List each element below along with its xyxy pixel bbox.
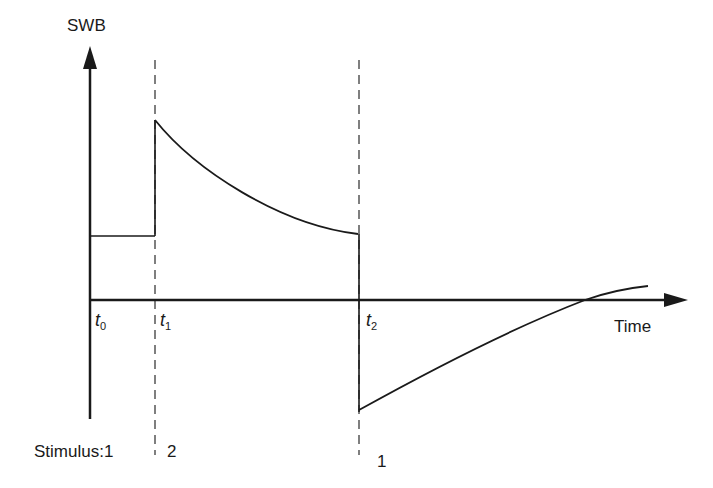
recovery-curve: [359, 286, 648, 410]
stimulus-prefix: Stimulus:: [34, 442, 104, 461]
y-axis-arrow-icon: [83, 46, 97, 69]
time-mark-t2: t2: [366, 311, 377, 332]
x-axis-arrow-icon: [664, 293, 688, 307]
stimulus-value-1: 1: [104, 442, 113, 461]
stimulus-label-3: 1: [377, 453, 386, 470]
time-mark-t0-sub: 0: [100, 320, 106, 332]
x-axis-label: Time: [614, 318, 651, 335]
decay-curve: [155, 120, 358, 234]
swb-diagram: [0, 0, 713, 488]
time-mark-t1-sub: 1: [165, 320, 171, 332]
time-mark-t0: t0: [95, 311, 106, 332]
stimulus-label-1: Stimulus:1: [34, 443, 113, 460]
time-mark-t2-sub: 2: [371, 320, 377, 332]
y-axis-label: SWB: [67, 17, 106, 34]
time-mark-t1: t1: [160, 311, 171, 332]
stimulus-label-2: 2: [167, 443, 176, 460]
